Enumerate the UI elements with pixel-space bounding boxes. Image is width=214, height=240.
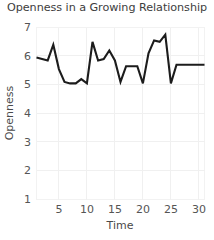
chart-plot: 1 2 3 4 5 6 7 5 10 15 20 25 30 Time Open… [0,0,214,240]
y-tick-6: 6 [24,50,31,63]
y-axis-ticks: 1 2 3 4 5 6 7 [24,21,31,206]
horizontal-gridlines [37,56,205,171]
x-tick-15: 15 [108,203,122,216]
x-tick-25: 25 [164,203,178,216]
x-tick-10: 10 [80,203,94,216]
y-tick-7: 7 [24,21,31,34]
x-tick-30: 30 [192,203,206,216]
y-tick-5: 5 [24,78,31,91]
y-tick-3: 3 [24,136,31,149]
y-tick-1: 1 [24,193,31,206]
x-axis-ticks: 5 10 15 20 25 30 [55,203,206,216]
x-tick-5: 5 [55,203,62,216]
y-axis-title: Openness [3,85,16,140]
y-tick-2: 2 [24,164,31,177]
chart-figure: Openness in a Growing Relationship 1 2 3 [0,0,214,240]
x-tick-20: 20 [136,203,150,216]
y-tick-4: 4 [24,107,31,120]
x-axis-title: Time [106,219,134,232]
openness-series-line [37,35,205,84]
